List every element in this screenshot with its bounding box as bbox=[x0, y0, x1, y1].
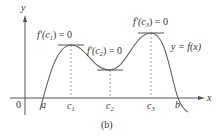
deriv-c1-annotation: f′(c1) = 0 bbox=[37, 29, 72, 41]
point-c1-label: c1 bbox=[67, 100, 75, 112]
y-axis-arrow-icon bbox=[23, 15, 27, 22]
rolle-theorem-figure: y x 0 a c1 c2 c3 b f′(c1) = 0 f′(c2) = 0… bbox=[0, 0, 216, 137]
point-c2-label: c2 bbox=[106, 100, 114, 112]
x-axis-label: x bbox=[206, 92, 212, 103]
point-b-label: b bbox=[175, 99, 180, 110]
dashed-guides bbox=[71, 33, 151, 98]
deriv-c3-annotation: f′(c3) = 0 bbox=[133, 16, 168, 28]
y-axis-label: y bbox=[20, 2, 26, 13]
deriv-c2-annotation: f′(c2) = 0 bbox=[87, 45, 122, 57]
point-c3-label: c3 bbox=[147, 100, 155, 112]
x-axis-arrow-icon bbox=[198, 96, 205, 100]
curve-label: y = f(x) bbox=[170, 41, 202, 53]
origin-label: 0 bbox=[16, 99, 21, 110]
point-a-label: a bbox=[41, 99, 46, 110]
figure-caption: (b) bbox=[101, 119, 113, 131]
